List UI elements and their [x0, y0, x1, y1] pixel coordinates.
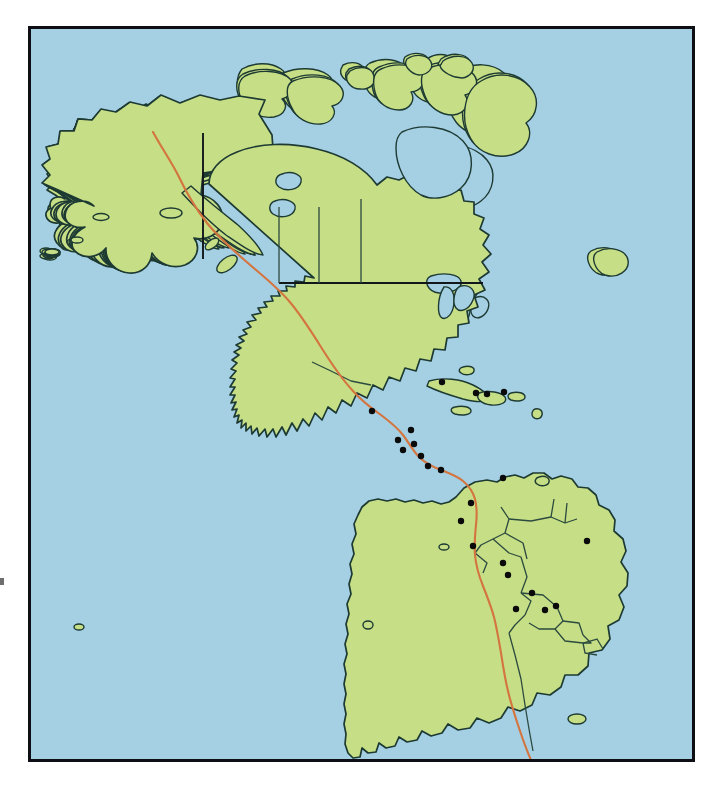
city-dot: Quito	[458, 518, 464, 524]
jamaica-island	[451, 406, 471, 415]
puerto-rico-island	[508, 392, 525, 401]
aleutian-visible-2	[71, 237, 83, 243]
city-dot: Asuncion	[529, 590, 535, 596]
city-dot: Managua	[418, 453, 424, 459]
city-dot: Mexico City	[369, 408, 375, 414]
city-dot: Panama City	[438, 467, 444, 473]
trinidad-island	[535, 476, 549, 485]
page-edge-artifact	[0, 578, 4, 585]
city-dot: Havana	[439, 379, 445, 385]
city-dot: San Jose	[425, 463, 431, 469]
great-slave-lake-water	[270, 200, 295, 217]
aleutian-visible-3	[45, 249, 59, 255]
city-dot: Montevideo	[553, 603, 559, 609]
city-dot: Bogota	[468, 500, 474, 506]
city-dot: La Paz	[500, 560, 506, 566]
city-dot: Buenos Aires	[542, 607, 548, 613]
map-canvas: .land { fill:#c6de85; stroke:#1d3a33; st…	[31, 29, 692, 759]
lesser-antilles-1	[532, 409, 542, 419]
city-dot: Lima	[470, 543, 476, 549]
city-dot: Santiago	[513, 606, 519, 612]
city-dot: Guatemala City	[395, 437, 401, 443]
map-figure: Map of the Americas with capital city ma…	[0, 0, 722, 794]
city-dot: Tegucigalpa	[411, 441, 417, 447]
galapagos-island	[439, 544, 449, 550]
city-dot: Sucre	[505, 572, 511, 578]
city-dot: Port-au-Prince	[473, 390, 479, 396]
falkland-island	[568, 714, 586, 724]
city-dot: Brasilia	[584, 538, 590, 544]
pacific-islet-1	[363, 621, 373, 629]
city-dot: Santo Domingo	[484, 391, 490, 397]
city-dot: Belmopan	[408, 427, 414, 433]
bahamas-island	[459, 366, 474, 375]
great-bear-lake-water	[276, 173, 301, 190]
city-dot: San Juan	[501, 389, 507, 395]
pacific-islet-2	[74, 624, 84, 630]
city-dot: Caracas	[500, 475, 506, 481]
city-dot: San Salvador	[400, 447, 406, 453]
map-frame: .land { fill:#c6de85; stroke:#1d3a33; st…	[28, 26, 695, 762]
